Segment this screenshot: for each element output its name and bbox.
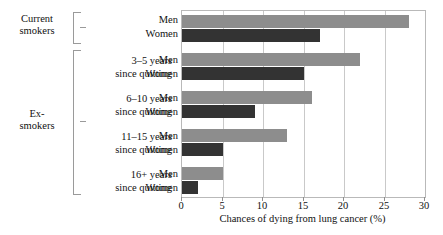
gridline-25	[385, 11, 386, 197]
tick-label-25: 25	[369, 200, 399, 211]
sex-label-men-6-10: Men	[118, 92, 178, 104]
bar-women-group-2	[182, 105, 255, 118]
gridline-20	[344, 11, 345, 197]
bracket-tick-current-smokers	[80, 27, 86, 28]
x-axis-title: Chances of dying from lung cancer (%)	[181, 213, 424, 224]
plot-area	[181, 10, 426, 198]
bracket-tick-ex-smokers	[80, 121, 86, 122]
bracket-current-smokers	[73, 12, 81, 44]
bar-women-group-4	[182, 181, 198, 194]
tick-label-15: 15	[288, 200, 318, 211]
sex-label-men-current: Men	[118, 14, 178, 26]
sex-label-women-3-5: Women	[118, 68, 178, 80]
sex-label-women-current: Women	[118, 28, 178, 40]
lung-cancer-bar-chart: Current smokers Ex- smokers 3–5 years si…	[0, 0, 443, 235]
bar-men-group-3	[182, 129, 287, 142]
group-label-current-smokers: Current smokers	[6, 13, 68, 37]
sex-label-women-6-10: Women	[118, 106, 178, 118]
tick-label-30: 30	[409, 200, 439, 211]
bar-men-group-2	[182, 91, 312, 104]
sex-label-women-16-plus: Women	[118, 182, 178, 194]
bar-women-group-1	[182, 67, 304, 80]
tick-label-5: 5	[207, 200, 237, 211]
bar-men-group-1	[182, 53, 360, 66]
bar-men-group-4	[182, 167, 223, 180]
tick-label-10: 10	[247, 200, 277, 211]
sex-label-men-11-15: Men	[118, 130, 178, 142]
sex-label-men-3-5: Men	[118, 54, 178, 66]
sex-label-women-11-15: Women	[118, 144, 178, 156]
tick-label-20: 20	[328, 200, 358, 211]
tick-label-0: 0	[166, 200, 196, 211]
bar-men-group-0	[182, 15, 409, 28]
bar-women-group-0	[182, 29, 320, 42]
sex-label-men-16-plus: Men	[118, 168, 178, 180]
bar-women-group-3	[182, 143, 223, 156]
